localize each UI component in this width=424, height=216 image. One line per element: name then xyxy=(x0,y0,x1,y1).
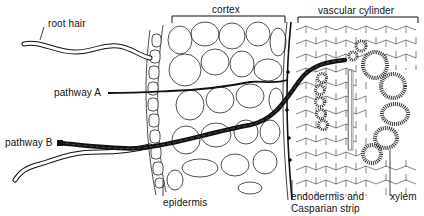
epidermis-cells xyxy=(146,25,166,195)
lower-root-hair xyxy=(15,146,150,180)
leader-lines xyxy=(40,27,390,196)
label-cortex: cortex xyxy=(212,4,240,15)
cortex-bracket xyxy=(172,16,285,23)
phloem-strip xyxy=(348,70,353,150)
label-endodermis: endodermis and xyxy=(291,191,364,202)
label-vascular-cylinder: vascular cylinder xyxy=(318,5,394,16)
cortex-cells xyxy=(167,22,286,194)
label-pathway-a: pathway A xyxy=(54,87,101,98)
label-epidermis: epidermis xyxy=(163,197,207,208)
pathway-a-line xyxy=(108,80,288,93)
protoxylem-cells xyxy=(316,41,367,130)
endodermis-line xyxy=(283,22,292,200)
diagram-drawing xyxy=(0,0,424,216)
root-hair xyxy=(24,43,150,58)
root-cross-section-diagram: root hair cortex vascular cylinder pathw… xyxy=(0,0,424,216)
label-casparian-strip: Casparian strip xyxy=(291,203,360,214)
pathway-b-line xyxy=(60,60,345,149)
label-root-hair: root hair xyxy=(48,18,86,29)
xylem-vessels xyxy=(363,52,408,163)
vascular-cylinder-bracket xyxy=(298,17,418,23)
label-xylem: xylem xyxy=(390,191,417,202)
pathway-b-marker xyxy=(57,140,63,146)
label-pathway-b: pathway B xyxy=(5,137,53,148)
